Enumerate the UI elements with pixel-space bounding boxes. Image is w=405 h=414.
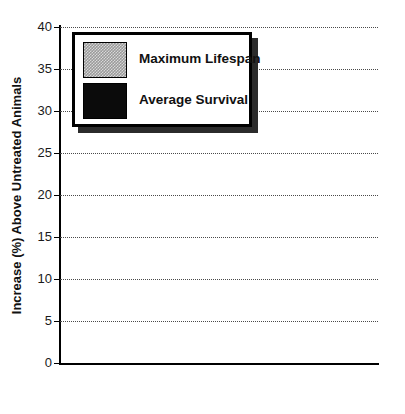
legend-swatch-average-survival [83, 83, 127, 119]
legend-swatch-maximum-lifespan [83, 42, 127, 78]
y-tick-label-0: 0 [6, 356, 52, 369]
y-tick-label-15: 15 [6, 230, 52, 243]
legend-label-maximum-lifespan: Maximum Lifespan [139, 51, 261, 66]
y-tick-label-25: 25 [6, 146, 52, 159]
y-tick-0 [54, 363, 60, 364]
y-tick-label-30: 30 [6, 104, 52, 117]
legend-box: Maximum Lifespan Average Survival [72, 32, 252, 127]
y-tick-label-35: 35 [6, 62, 52, 75]
x-axis-line [59, 363, 379, 365]
y-tick-label-10: 10 [6, 272, 52, 285]
y-tick-label-40: 40 [6, 20, 52, 33]
y-tick-label-20: 20 [6, 188, 52, 201]
cropped-title-sliver [0, 0, 405, 7]
bar-chart: Increase (%) Above Untreated Animals 051… [0, 0, 405, 414]
y-tick-label-5: 5 [6, 314, 52, 327]
legend-label-average-survival: Average Survival [139, 92, 248, 107]
